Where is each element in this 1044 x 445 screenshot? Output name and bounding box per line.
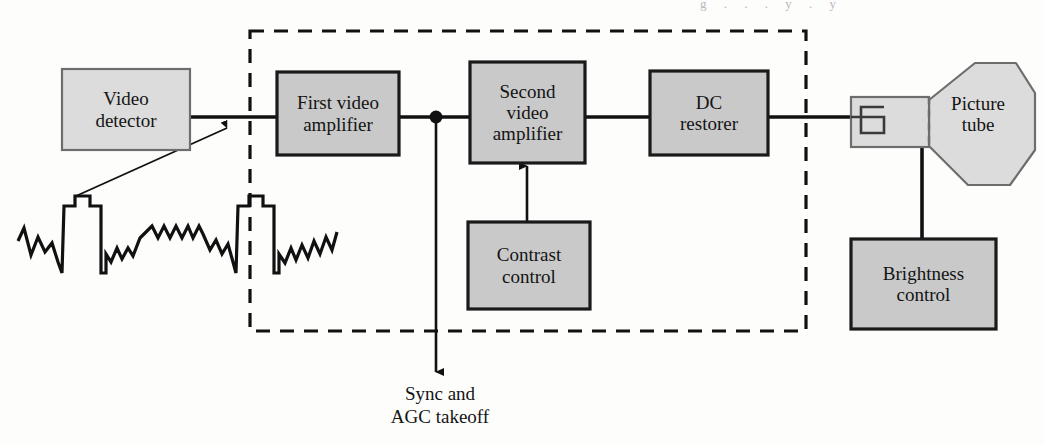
picture-tube [851, 63, 1035, 185]
video-signal-junction-dot [430, 111, 443, 124]
block-dc-restorer [650, 71, 768, 155]
crt-neck-shape [851, 97, 929, 147]
annotation-sync-and-agc-takeoff: Sync and AGC takeoff [330, 383, 550, 429]
junction-dots [430, 111, 443, 124]
block-brightness-control [851, 239, 996, 329]
diagram-canvas [0, 0, 1044, 445]
crt-cone-shape [929, 63, 1035, 185]
block-second-video-amplifier [470, 62, 585, 163]
block-video-detector [62, 69, 190, 150]
block-first-video-amplifier [277, 72, 399, 155]
block-contrast-control [468, 222, 590, 309]
composite-video-waveform [18, 196, 337, 273]
video-amplifier-block-diagram: g . . . y . y [0, 0, 1044, 445]
